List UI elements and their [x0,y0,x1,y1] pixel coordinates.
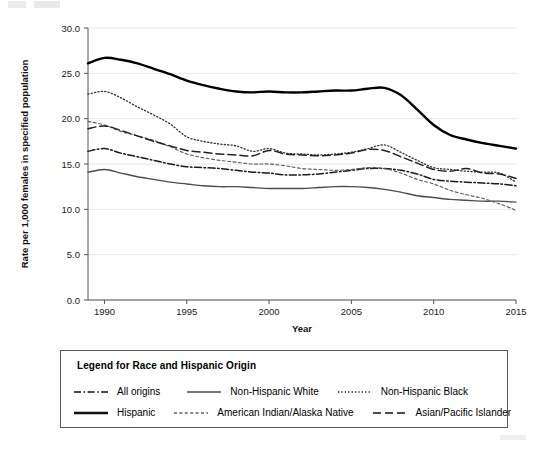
legend-entry[interactable]: American Indian/Alaska Native [173,407,353,418]
figure-root: 0.05.010.015.020.025.030.0 1990199520002… [0,0,542,454]
legend-row: All originsNon-Hispanic WhiteNon-Hispani… [73,381,499,402]
chart-svg: 0.05.010.015.020.025.030.0 1990199520002… [0,0,542,340]
y-axis-title: Rate per 1,000 females in specified popu… [19,60,30,269]
y-tick-label: 5.0 [67,249,80,260]
legend-entry[interactable]: Asian/Pacific Islander [372,407,512,418]
x-axis-ticks: 199019952000200520102015 [94,300,527,317]
legend-swatch-dash-dot-icon [73,387,109,397]
legend-line-sample [73,387,109,397]
x-tick-label: 1990 [94,306,115,317]
legend-line-sample [73,408,109,418]
line-chart: 0.05.010.015.020.025.030.0 1990199520002… [0,0,542,340]
legend-entry-label: American Indian/Alaska Native [217,407,353,418]
y-tick-label: 20.0 [62,113,81,124]
legend-entry-label: Non-Hispanic Black [381,386,468,397]
y-tick-label: 10.0 [62,204,81,215]
legend-swatch-long-dash-icon [372,408,408,418]
legend-entry-label: Hispanic [117,407,155,418]
legend-swatch-solid-thick-icon [73,408,109,418]
data-series-group [88,58,516,210]
x-tick-label: 1995 [176,306,197,317]
legend-entry[interactable]: All origins [73,386,160,397]
legend-line-sample [337,387,373,397]
series-line [88,58,516,149]
y-tick-label: 0.0 [67,295,80,306]
y-axis-ticks: 0.05.010.015.020.025.030.0 [62,23,89,306]
chart-legend: Legend for Race and Hispanic Origin All … [60,350,508,428]
scan-artifact-bottom-right [500,435,526,440]
legend-entry-label: Non-Hispanic White [230,386,318,397]
legend-swatch-dotted-icon [337,387,373,397]
legend-swatch-fine-dash-icon [173,408,209,418]
series-line [88,169,516,202]
legend-entry-label: All origins [117,386,160,397]
legend-entry-label: Asian/Pacific Islander [416,407,512,418]
y-tick-label: 15.0 [62,159,81,170]
legend-line-sample [186,387,222,397]
y-tick-label: 30.0 [62,23,81,34]
legend-entry[interactable]: Non-Hispanic Black [337,386,468,397]
legend-entries: All originsNon-Hispanic WhiteNon-Hispani… [73,381,499,423]
x-tick-label: 2010 [423,306,444,317]
legend-row: HispanicAmerican Indian/Alaska NativeAsi… [73,402,499,423]
legend-swatch-solid-thin-icon [186,387,222,397]
legend-entry[interactable]: Hispanic [73,407,155,418]
x-tick-label: 2005 [341,306,362,317]
legend-title: Legend for Race and Hispanic Origin [77,360,256,371]
x-axis-title: Year [292,323,312,334]
legend-line-sample [173,408,209,418]
legend-line-sample [372,408,408,418]
y-tick-label: 25.0 [62,68,81,79]
legend-entry[interactable]: Non-Hispanic White [186,386,318,397]
x-tick-label: 2000 [259,306,280,317]
series-line [88,126,516,179]
x-tick-label: 2015 [505,306,526,317]
